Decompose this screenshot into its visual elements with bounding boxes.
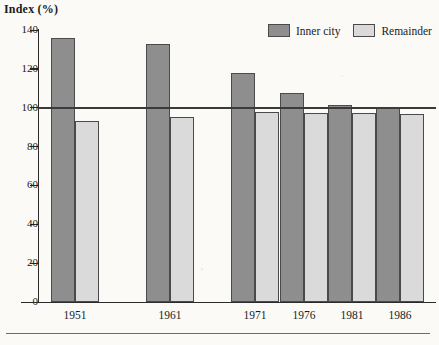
bar-1951-inner-city xyxy=(51,38,75,302)
x-axis-tick-label: 1971 xyxy=(230,309,280,321)
bar-1961-inner-city xyxy=(146,44,170,302)
bar-1986-remainder xyxy=(400,114,424,302)
plot-area xyxy=(38,30,436,302)
y-axis-tick-label: 60 xyxy=(12,179,38,190)
footer-rule xyxy=(6,333,430,334)
bar-1986-inner-city xyxy=(376,108,400,302)
bar-1976-inner-city xyxy=(280,93,304,302)
x-axis-tick-label: 1981 xyxy=(327,309,377,321)
y-axis-tick-label: 80 xyxy=(12,141,38,152)
y-axis-tick-label: 100 xyxy=(12,102,38,113)
bar-1981-remainder xyxy=(352,113,376,302)
bar-1951-remainder xyxy=(75,121,99,302)
bar-1981-inner-city xyxy=(328,105,352,302)
bar-1976-remainder xyxy=(304,113,328,302)
y-axis-tick-label: 120 xyxy=(12,63,38,74)
y-axis-tick-label: 20 xyxy=(12,257,38,268)
x-axis-tick-label: 1986 xyxy=(375,309,425,321)
x-axis-tick-label: 1951 xyxy=(50,309,100,321)
bar-1971-remainder xyxy=(255,112,279,302)
x-axis-tick-label: 1961 xyxy=(145,309,195,321)
chart-figure: Index (%) Inner city Remainder 140120100… xyxy=(0,0,439,345)
x-axis-line xyxy=(21,302,436,303)
bar-1961-remainder xyxy=(170,117,194,302)
x-axis-tick-label: 1976 xyxy=(279,309,329,321)
y-axis: 140120100806040200 xyxy=(0,0,38,345)
reference-line-100 xyxy=(38,107,436,108)
y-axis-tick-label: 140 xyxy=(12,24,38,35)
y-axis-tick-label: 40 xyxy=(12,218,38,229)
